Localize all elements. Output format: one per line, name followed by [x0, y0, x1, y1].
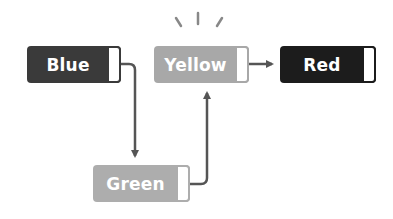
node-blue-label: Blue [27, 46, 109, 83]
node-green-port[interactable] [178, 165, 190, 202]
node-red-port[interactable] [364, 46, 376, 83]
node-green-label: Green [93, 165, 178, 202]
node-yellow-label: Yellow [154, 46, 237, 83]
node-red[interactable]: Red [280, 46, 376, 83]
node-green[interactable]: Green [93, 165, 190, 202]
node-yellow[interactable]: Yellow [154, 46, 249, 83]
highlight-sparkle-icon [176, 13, 222, 26]
node-yellow-port[interactable] [237, 46, 249, 83]
node-blue[interactable]: Blue [27, 46, 121, 83]
connector-layer [0, 0, 393, 219]
node-red-label: Red [280, 46, 364, 83]
node-blue-port[interactable] [109, 46, 121, 83]
